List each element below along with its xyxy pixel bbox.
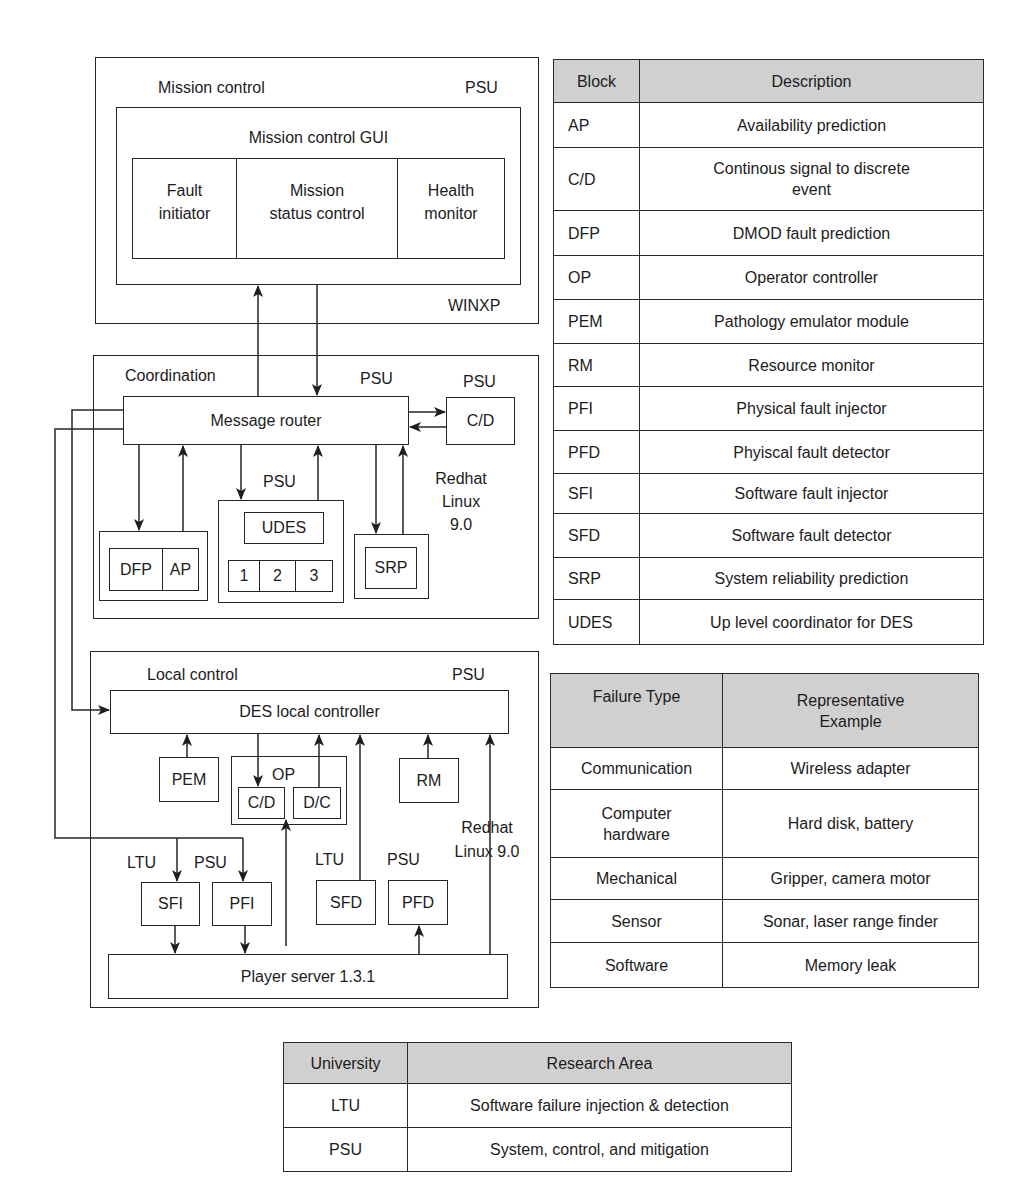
column-header-representative-example: Representative Example <box>723 674 979 748</box>
local-control-os: Redhat Linux 9.0 <box>452 816 522 864</box>
failure-type-cell: Sensor <box>551 900 723 943</box>
table-row: SFDSoftware fault detector <box>554 514 984 558</box>
table-row: C/DContinous signal to discrete event <box>554 148 984 211</box>
udes-slot-2: 2 <box>260 561 296 591</box>
column-header-research-area: Research Area <box>408 1043 792 1084</box>
table-row: PFDPhyiscal fault detector <box>554 431 984 474</box>
table-row: PEMPathology emulator module <box>554 300 984 344</box>
description-cell: System reliability prediction <box>640 558 984 600</box>
block-cell: SFI <box>554 474 640 514</box>
pfd-module: PFD <box>388 880 448 925</box>
srp-module: SRP <box>365 547 417 589</box>
column-header-description: Description <box>640 60 984 103</box>
local-control-org: PSU <box>452 665 485 684</box>
des-local-controller: DES local controller <box>110 690 509 734</box>
description-cell: Physical fault injector <box>640 387 984 431</box>
mission-control-title: Mission control <box>158 78 265 97</box>
table-header-row: University Research Area <box>284 1043 792 1084</box>
udes-slot-1: 1 <box>229 561 260 591</box>
research-area-cell: Software failure injection & detection <box>408 1084 792 1128</box>
description-cell: Software fault detector <box>640 514 984 558</box>
description-cell: Phyiscal fault detector <box>640 431 984 474</box>
dfp-module: DFP <box>110 549 163 590</box>
description-cell: Resource monitor <box>640 344 984 387</box>
table-row: SoftwareMemory leak <box>551 943 979 988</box>
table-row: CommunicationWireless adapter <box>551 748 979 790</box>
table-row: DFPDMOD fault prediction <box>554 211 984 256</box>
sfi-module: SFI <box>141 882 200 926</box>
rm-module: RM <box>399 758 459 803</box>
ap-module: AP <box>163 549 198 590</box>
pfi-org: PSU <box>194 853 227 872</box>
failure-type-table: Failure Type Representative Example Comm… <box>550 673 979 988</box>
table-row: RMResource monitor <box>554 344 984 387</box>
table-row: Computer hardwareHard disk, battery <box>551 790 979 858</box>
sfi-org: LTU <box>127 853 156 872</box>
column-header-university: University <box>284 1043 408 1084</box>
architecture-figure: Mission control PSU Mission control GUI … <box>0 0 1034 1192</box>
table-row: SensorSonar, laser range finder <box>551 900 979 943</box>
description-cell: Availability prediction <box>640 103 984 148</box>
university-cell: LTU <box>284 1084 408 1128</box>
example-cell: Wireless adapter <box>723 748 979 790</box>
description-cell: Up level coordinator for DES <box>640 600 984 645</box>
block-cell: DFP <box>554 211 640 256</box>
block-cell: PFI <box>554 387 640 431</box>
table-header-row: Block Description <box>554 60 984 103</box>
column-header-block: Block <box>554 60 640 103</box>
example-cell: Gripper, camera motor <box>723 858 979 900</box>
table-row: SRPSystem reliability prediction <box>554 558 984 600</box>
cd-org: PSU <box>463 372 496 391</box>
mission-control-org: PSU <box>465 78 498 97</box>
udes-slots: 1 2 3 <box>228 560 333 592</box>
health-monitor-module: Health monitor <box>398 159 504 258</box>
failure-type-cell: Mechanical <box>551 858 723 900</box>
table-row: MechanicalGripper, camera motor <box>551 858 979 900</box>
description-cell: Operator controller <box>640 256 984 300</box>
table-row: UDESUp level coordinator for DES <box>554 600 984 645</box>
udes-slot-3: 3 <box>296 561 332 591</box>
table-row: OPOperator controller <box>554 256 984 300</box>
block-cell: SFD <box>554 514 640 558</box>
block-cell: PEM <box>554 300 640 344</box>
mission-control-os: WINXP <box>448 296 500 315</box>
description-cell: DMOD fault prediction <box>640 211 984 256</box>
example-cell: Hard disk, battery <box>723 790 979 858</box>
cd-converter-block: C/D <box>446 397 515 445</box>
op-cd-module: C/D <box>238 787 285 819</box>
mission-status-control-module: Mission status control <box>237 159 398 258</box>
message-router: Message router <box>123 396 409 445</box>
university-research-table: University Research Area LTUSoftware fai… <box>283 1042 792 1172</box>
dfp-ap-modules: DFP AP <box>109 548 199 591</box>
table-row: PSUSystem, control, and mitigation <box>284 1128 792 1172</box>
player-server: Player server 1.3.1 <box>108 954 508 999</box>
udes-module: UDES <box>244 512 324 544</box>
block-description-table: Block Description APAvailability predict… <box>553 59 984 645</box>
coordination-os: Redhat Linux 9.0 <box>430 467 492 536</box>
failure-type-cell: Communication <box>551 748 723 790</box>
coordination-org: PSU <box>360 369 393 388</box>
table-row: APAvailability prediction <box>554 103 984 148</box>
example-cell: Sonar, laser range finder <box>723 900 979 943</box>
description-cell: Pathology emulator module <box>640 300 984 344</box>
university-cell: PSU <box>284 1128 408 1172</box>
coordination-title: Coordination <box>125 366 216 385</box>
block-cell: AP <box>554 103 640 148</box>
block-cell: RM <box>554 344 640 387</box>
table-row: SFISoftware fault injector <box>554 474 984 514</box>
op-label: OP <box>272 765 295 784</box>
gui-modules: Fault initiator Mission status control H… <box>132 158 505 259</box>
pfd-org: PSU <box>387 850 420 869</box>
failure-type-cell: Computer hardware <box>551 790 723 858</box>
block-cell: SRP <box>554 558 640 600</box>
description-cell: Software fault injector <box>640 474 984 514</box>
table-row: PFIPhysical fault injector <box>554 387 984 431</box>
failure-type-cell: Software <box>551 943 723 988</box>
column-header-failure-type: Failure Type <box>551 674 723 748</box>
pem-module: PEM <box>159 757 219 802</box>
pfi-module: PFI <box>212 882 272 926</box>
sfd-module: SFD <box>316 880 376 925</box>
block-cell: UDES <box>554 600 640 645</box>
table-header-row: Failure Type Representative Example <box>551 674 979 748</box>
mission-control-gui-title: Mission control GUI <box>116 128 521 147</box>
